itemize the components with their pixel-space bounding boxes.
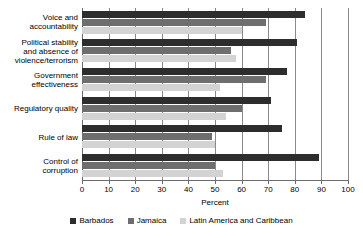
bar [82,97,271,104]
bar-group [82,65,348,94]
tick-label-70: 70 [253,185,283,194]
bar [82,11,305,18]
tick-label-100: 100 [333,185,363,194]
tick-30 [162,180,163,184]
chart-legend: BarbadosJamaicaLatin America and Caribbe… [0,216,363,225]
tick-label-20: 20 [120,185,150,194]
category-label: Control ofcorruption [0,157,78,175]
bar [82,84,220,91]
category-label-line: violence/terrorism [0,56,78,65]
tick-100 [348,180,349,184]
bar [82,47,231,54]
bar [82,170,223,177]
category-label-line: Government [0,71,78,80]
category-label-line: effectiveness [0,80,78,89]
category-label-line: Control of [0,157,78,166]
tick-10 [109,180,110,184]
category-label: Voice andaccountability [0,13,78,31]
legend-swatch-icon [70,218,76,224]
bar [82,19,266,26]
bar [82,105,242,112]
bar [82,76,266,83]
legend-label: Jamaica [137,216,167,225]
bar-group [82,94,348,123]
bar [82,133,212,140]
tick-50 [215,180,216,184]
category-label-line: Regulatory quality [0,104,78,113]
bar [82,113,226,120]
category-label-line: corruption [0,166,78,175]
category-label-line: Political stability [0,38,78,47]
bar-chart: 0102030405060708090100 Percent Voice and… [0,0,363,238]
tick-60 [242,180,243,184]
bar [82,55,236,62]
category-label-line: accountability [0,22,78,31]
category-label: Rule of law [0,133,78,142]
x-axis-title: Percent [82,198,348,207]
tick-label-60: 60 [227,185,257,194]
bar [82,68,287,75]
legend-label: Barbados [79,216,113,225]
tick-label-40: 40 [173,185,203,194]
bar [82,27,242,34]
bar-group [82,8,348,37]
bar [82,141,215,148]
bar-group [82,123,348,152]
legend-label: Latin America and Caribbean [189,216,292,225]
tick-80 [295,180,296,184]
tick-label-0: 0 [67,185,97,194]
gridline-100 [348,8,349,180]
tick-label-80: 80 [280,185,310,194]
bar [82,125,282,132]
category-label: Political stabilityand absence ofviolenc… [0,38,78,65]
tick-label-30: 30 [147,185,177,194]
category-label: Governmenteffectiveness [0,71,78,89]
tick-20 [135,180,136,184]
tick-40 [188,180,189,184]
category-label-line: and absence of [0,47,78,56]
bar [82,162,215,169]
tick-70 [268,180,269,184]
bar [82,39,297,46]
tick-label-90: 90 [306,185,336,194]
tick-label-10: 10 [94,185,124,194]
category-label-line: Voice and [0,13,78,22]
bar-group [82,37,348,66]
legend-swatch-icon [180,218,186,224]
tick-0 [82,180,83,184]
legend-item[interactable]: Barbados [70,216,113,225]
legend-item[interactable]: Jamaica [128,216,167,225]
legend-item[interactable]: Latin America and Caribbean [180,216,292,225]
bar [82,154,319,161]
tick-label-50: 50 [200,185,230,194]
category-label-line: Rule of law [0,133,78,142]
legend-swatch-icon [128,218,134,224]
category-label: Regulatory quality [0,104,78,113]
tick-90 [321,180,322,184]
bar-group [82,151,348,180]
